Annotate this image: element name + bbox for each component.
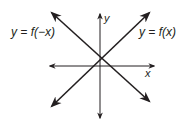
x-axis-label: x [145, 68, 151, 79]
y-axis-label: y [104, 13, 110, 24]
reflection-diagram: y x y = f(−x) y = f(x) [0, 0, 189, 124]
label-f-of-neg-x: y = f(−x) [11, 26, 55, 38]
label-f-of-x: y = f(x) [139, 26, 176, 38]
graph-svg [0, 0, 189, 124]
